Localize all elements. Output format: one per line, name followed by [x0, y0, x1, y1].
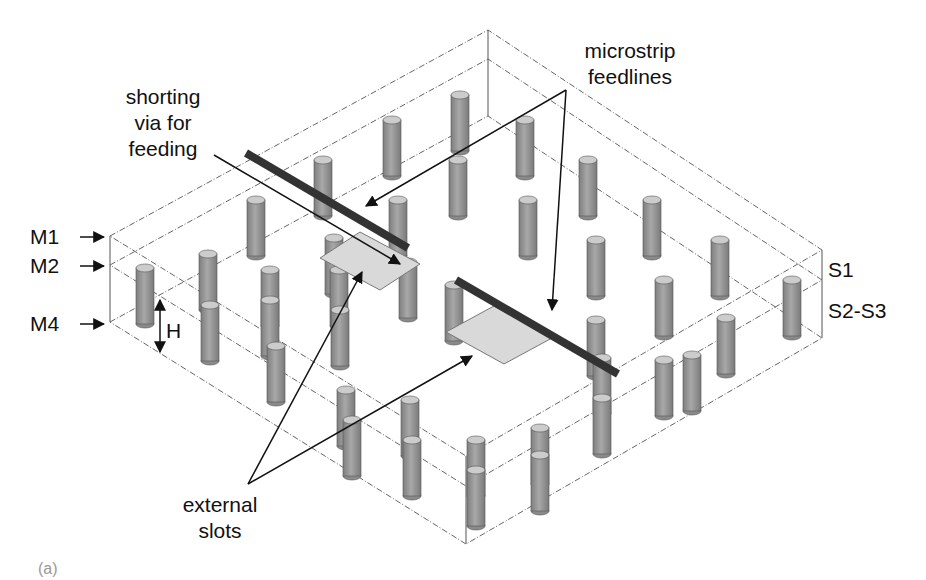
via-cylinder [516, 120, 534, 176]
via-cylinder [593, 398, 611, 454]
via-cylinder [711, 240, 729, 296]
via-cylinder [136, 268, 154, 324]
via-cylinder [519, 200, 537, 256]
label-layer-m2: M2 [30, 253, 59, 279]
via-cylinder [683, 355, 701, 411]
label-height: H [166, 318, 181, 344]
via-cylinder [717, 318, 735, 374]
via-cylinder [655, 360, 673, 416]
via-cylinder [451, 95, 469, 151]
label-shorting-via: shorting via for feeding [108, 84, 218, 162]
via-cylinder [267, 346, 285, 402]
via-cylinder [587, 240, 605, 296]
via-cylinder [201, 305, 219, 361]
panel-label: (a) [38, 556, 58, 580]
via-cylinder [643, 200, 661, 256]
via-cylinder [655, 280, 673, 336]
label-layer-m1: M1 [30, 224, 59, 250]
label-microstrip-feedlines: microstrip feedlines [570, 38, 690, 90]
via-cylinder [531, 455, 549, 511]
via-cylinder [314, 160, 332, 216]
via-array [136, 91, 801, 530]
label-layer-s1: S1 [828, 257, 854, 283]
via-cylinder [403, 440, 421, 496]
via-cylinder [449, 160, 467, 216]
via-cylinder [331, 310, 349, 366]
via-cylinder [783, 280, 801, 336]
via-cylinder [247, 200, 265, 256]
via-cylinder [467, 470, 485, 526]
via-cylinder [579, 160, 597, 216]
via-cylinder [383, 120, 401, 176]
label-layer-s2-s3: S2-S3 [828, 298, 886, 324]
label-layer-m4: M4 [30, 311, 59, 337]
label-external-slots: external slots [170, 492, 270, 544]
